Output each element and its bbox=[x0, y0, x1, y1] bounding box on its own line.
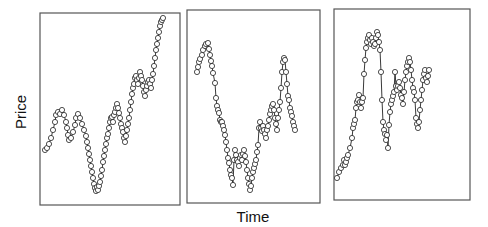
data-point-marker bbox=[155, 35, 160, 40]
data-point-marker bbox=[85, 145, 90, 150]
data-point-marker bbox=[396, 79, 401, 84]
data-point-marker bbox=[205, 40, 210, 45]
data-point-marker bbox=[128, 99, 133, 104]
data-point-marker bbox=[52, 119, 57, 124]
data-point-marker bbox=[407, 59, 412, 64]
data-point-marker bbox=[221, 127, 226, 132]
data-point-marker bbox=[399, 95, 404, 100]
data-point-marker bbox=[64, 125, 69, 130]
data-point-marker bbox=[116, 110, 121, 115]
data-point-marker bbox=[415, 125, 420, 130]
data-point-marker bbox=[375, 32, 380, 37]
data-point-marker bbox=[122, 139, 127, 144]
data-point-marker bbox=[154, 41, 159, 46]
data-point-marker bbox=[284, 81, 289, 86]
data-point-marker bbox=[292, 127, 297, 132]
data-point-marker bbox=[275, 115, 280, 120]
y-axis-label: Price bbox=[12, 95, 29, 129]
price-line bbox=[337, 32, 429, 178]
data-point-marker bbox=[101, 153, 106, 158]
data-point-marker bbox=[271, 107, 276, 112]
data-point-marker bbox=[224, 147, 229, 152]
data-point-marker bbox=[124, 127, 129, 132]
data-point-marker bbox=[99, 167, 104, 172]
data-point-marker bbox=[266, 117, 271, 122]
data-point-marker bbox=[383, 137, 388, 142]
data-point-marker bbox=[160, 15, 165, 20]
data-point-marker bbox=[408, 67, 413, 72]
data-point-marker bbox=[347, 145, 352, 150]
data-point-marker bbox=[289, 113, 294, 118]
data-point-marker bbox=[361, 71, 366, 76]
data-point-marker bbox=[424, 79, 429, 84]
x-axis-label: Time bbox=[237, 208, 270, 225]
data-point-marker bbox=[86, 151, 91, 156]
data-point-marker bbox=[419, 87, 424, 92]
data-point-marker bbox=[376, 39, 381, 44]
data-point-marker bbox=[241, 147, 246, 152]
data-point-marker bbox=[152, 55, 157, 60]
data-point-marker bbox=[216, 110, 221, 115]
data-point-marker bbox=[100, 159, 105, 164]
data-point-marker bbox=[387, 109, 392, 114]
data-point-marker bbox=[48, 135, 53, 140]
data-point-marker bbox=[149, 77, 154, 82]
data-point-marker bbox=[81, 127, 86, 132]
data-point-marker bbox=[127, 107, 132, 112]
data-point-marker bbox=[254, 149, 259, 154]
data-point-marker bbox=[199, 52, 204, 57]
data-point-marker bbox=[230, 182, 235, 187]
data-point-marker bbox=[102, 147, 107, 152]
data-point-marker bbox=[273, 121, 278, 126]
data-point-marker bbox=[209, 63, 214, 68]
data-point-marker bbox=[210, 70, 215, 75]
data-point-marker bbox=[70, 129, 75, 134]
data-point-marker bbox=[97, 179, 102, 184]
data-point-marker bbox=[98, 173, 103, 178]
data-point-marker bbox=[84, 139, 89, 144]
data-point-marker bbox=[129, 91, 134, 96]
data-point-marker bbox=[105, 131, 110, 136]
data-point-marker bbox=[380, 119, 385, 124]
data-point-marker bbox=[274, 127, 279, 132]
data-point-marker bbox=[265, 123, 270, 128]
data-point-marker bbox=[110, 119, 115, 124]
data-point-marker bbox=[103, 141, 108, 146]
data-point-marker bbox=[417, 107, 422, 112]
data-point-marker bbox=[378, 69, 383, 74]
data-point-marker bbox=[135, 81, 140, 86]
data-point-marker bbox=[249, 175, 254, 180]
data-point-marker bbox=[282, 57, 287, 62]
data-point-marker bbox=[243, 159, 248, 164]
data-point-marker bbox=[379, 97, 384, 102]
data-point-marker bbox=[278, 85, 283, 90]
data-point-marker bbox=[270, 101, 275, 106]
data-point-marker bbox=[385, 145, 390, 150]
data-point-marker bbox=[384, 132, 389, 137]
data-point-marker bbox=[153, 47, 158, 52]
chart-canvas bbox=[0, 0, 488, 227]
data-point-marker bbox=[229, 175, 234, 180]
data-point-marker bbox=[363, 45, 368, 50]
data-point-marker bbox=[72, 122, 77, 127]
data-point-marker bbox=[195, 64, 200, 69]
data-point-marker bbox=[283, 69, 288, 74]
data-point-marker bbox=[87, 157, 92, 162]
panel-1 bbox=[40, 13, 180, 205]
data-point-marker bbox=[213, 95, 218, 100]
data-point-marker bbox=[401, 89, 406, 94]
panel-2 bbox=[187, 10, 320, 203]
data-point-marker bbox=[50, 127, 55, 132]
data-point-marker bbox=[106, 125, 111, 130]
data-point-marker bbox=[117, 115, 122, 120]
data-point-marker bbox=[123, 133, 128, 138]
data-point-marker bbox=[362, 57, 367, 62]
data-point-marker bbox=[222, 132, 227, 137]
data-point-marker bbox=[223, 139, 228, 144]
data-point-marker bbox=[126, 115, 131, 120]
data-point-marker bbox=[68, 135, 73, 140]
data-point-marker bbox=[79, 121, 84, 126]
data-point-marker bbox=[46, 141, 51, 146]
data-point-marker bbox=[426, 67, 431, 72]
data-point-marker bbox=[277, 99, 282, 104]
